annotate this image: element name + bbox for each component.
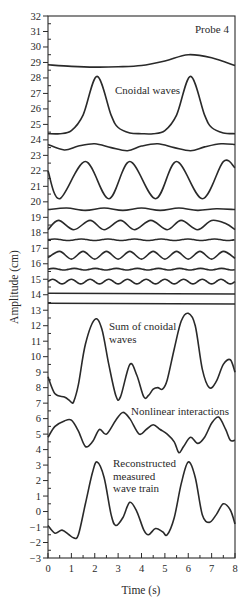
y-tick-label: −1 <box>30 522 41 533</box>
series-cnoidal-wave-12 <box>48 303 235 304</box>
y-tick-label: 10 <box>31 351 42 362</box>
y-tick-label: 6 <box>36 413 41 424</box>
series-cnoidal-wave-10 <box>48 279 235 284</box>
series-cnoidal-wave-4 <box>48 160 235 199</box>
y-tick-label: 22 <box>31 165 42 176</box>
y-tick-label: 19 <box>31 212 42 223</box>
annotation-sum-of-cnoidal-waves: Sum of cnoidalwaves <box>109 320 176 345</box>
y-tick-label: 27 <box>31 88 42 99</box>
x-tick-label: 3 <box>116 563 121 574</box>
y-tick-label: 5 <box>36 429 41 440</box>
y-tick-label: 32 <box>31 11 42 22</box>
x-tick-label: 5 <box>162 563 167 574</box>
y-tick-label: 0 <box>36 506 41 517</box>
x-axis: 012345678 <box>45 553 237 574</box>
x-tick-label: 1 <box>69 563 74 574</box>
y-axis-title: Amplitude (cm) <box>8 250 21 324</box>
y-tick-label: 13 <box>31 305 42 316</box>
annotation-reconstructed-measured-wave-train: Reconstructedmeasuredwave train <box>113 457 176 494</box>
series-cnoidal-wave-8 <box>48 251 235 259</box>
y-tick-label: 30 <box>31 41 42 52</box>
y-tick-label: 11 <box>31 336 41 347</box>
y-tick-label: 25 <box>31 119 42 130</box>
y-tick-label: 18 <box>31 227 42 238</box>
series-cnoidal-wave-7 <box>48 239 235 241</box>
x-tick-label: 7 <box>209 563 214 574</box>
y-tick-label: 23 <box>31 150 42 161</box>
y-tick-label: 4 <box>36 444 42 455</box>
x-tick-label: 4 <box>139 563 145 574</box>
y-tick-label: −2 <box>30 537 41 548</box>
series-cnoidal-wave-1 <box>48 55 235 68</box>
x-axis-title: Time (s) <box>122 584 161 597</box>
x-tick-label: 8 <box>232 563 237 574</box>
y-tick-label: 8 <box>36 382 41 393</box>
series-cnoidal-wave-6 <box>48 220 235 230</box>
y-tick-label: 29 <box>31 57 42 68</box>
y-tick-label: 12 <box>31 320 42 331</box>
series-cnoidal-wave-9 <box>48 268 235 270</box>
x-tick-label: 0 <box>45 563 50 574</box>
y-tick-label: 24 <box>31 134 42 145</box>
y-tick-label: 21 <box>31 181 42 192</box>
annotation-cnoidal-waves: Cnoidal waves <box>115 84 180 96</box>
series-nonlinear-interactions <box>48 412 235 452</box>
y-tick-label: 1 <box>36 491 41 502</box>
y-tick-label: 2 <box>36 475 41 486</box>
y-tick-label: 26 <box>31 103 42 114</box>
series-cnoidal-wave-3 <box>48 144 235 151</box>
y-tick-label: −3 <box>30 553 41 564</box>
annotation-nonlinear-interactions: Nonlinear interactions <box>131 405 229 417</box>
y-tick-label: 20 <box>31 196 42 207</box>
series-cnoidal-wave-5 <box>48 208 235 210</box>
y-tick-label: 3 <box>36 460 41 471</box>
y-tick-label: 15 <box>31 274 42 285</box>
x-tick-label: 6 <box>186 563 191 574</box>
y-tick-label: 17 <box>31 243 42 254</box>
y-tick-label: 7 <box>36 398 41 409</box>
series-cnoidal-wave-11 <box>48 293 235 294</box>
y-tick-label: 9 <box>36 367 41 378</box>
chart: −3−2−10123456789101112131415161718192021… <box>0 0 247 604</box>
y-tick-label: 28 <box>31 72 42 83</box>
y-tick-label: 14 <box>31 289 42 300</box>
y-tick-label: 31 <box>31 26 42 37</box>
y-tick-label: 16 <box>31 258 42 269</box>
probe-label: Probe 4 <box>195 23 229 35</box>
x-tick-label: 2 <box>92 563 97 574</box>
